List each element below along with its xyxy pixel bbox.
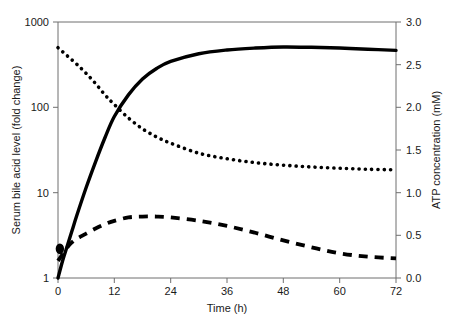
y-axis-title: Serum bile acid level (fold change) <box>10 66 22 235</box>
left-axis-ticks <box>53 22 58 278</box>
series-bile-acid-falling-dotted <box>58 48 396 170</box>
right-tick-label-3-0: 3.0 <box>406 16 421 28</box>
x-axis-tick-labels: 0 12 24 36 48 60 72 <box>55 285 402 297</box>
origin-marker <box>56 243 64 254</box>
x-tick-label-72: 72 <box>390 285 402 297</box>
right-tick-label-1-5: 1.5 <box>406 144 421 156</box>
x-tick-label-36: 36 <box>221 285 233 297</box>
x-axis-ticks <box>58 278 396 283</box>
right-tick-label-1-0: 1.0 <box>406 187 421 199</box>
right-axis-tick-labels: 3.0 2.5 2.0 1.5 1.0 0.5 0.0 <box>406 16 421 284</box>
chart-plot-svg: 1000 100 10 1 3.0 2.5 2.0 1.5 1.0 0.5 0.… <box>0 0 455 321</box>
chart-figure: 1000 100 10 1 3.0 2.5 2.0 1.5 1.0 0.5 0.… <box>0 0 455 321</box>
x-tick-label-48: 48 <box>277 285 289 297</box>
left-axis-tick-labels: 1000 100 10 1 <box>25 16 49 284</box>
right-tick-label-0-5: 0.5 <box>406 229 421 241</box>
series-bile-acid-rising-solid <box>58 47 396 278</box>
x-tick-label-12: 12 <box>108 285 120 297</box>
left-tick-label-100: 100 <box>31 101 49 113</box>
right-tick-label-0-0: 0.0 <box>406 272 421 284</box>
left-tick-label-10: 10 <box>37 187 49 199</box>
x-axis-title: Time (h) <box>207 302 248 314</box>
plot-frame <box>58 22 396 278</box>
series-atp-dashed <box>58 216 396 260</box>
left-tick-label-1: 1 <box>43 272 49 284</box>
x-tick-label-60: 60 <box>334 285 346 297</box>
y2-axis-title: ATP concentration (mM) <box>430 91 442 209</box>
left-tick-label-1000: 1000 <box>25 16 49 28</box>
right-tick-label-2-5: 2.5 <box>406 59 421 71</box>
right-axis-ticks <box>396 22 401 278</box>
right-tick-label-2-0: 2.0 <box>406 101 421 113</box>
data-series-group <box>56 47 396 278</box>
x-tick-label-24: 24 <box>165 285 177 297</box>
x-tick-label-0: 0 <box>55 285 61 297</box>
